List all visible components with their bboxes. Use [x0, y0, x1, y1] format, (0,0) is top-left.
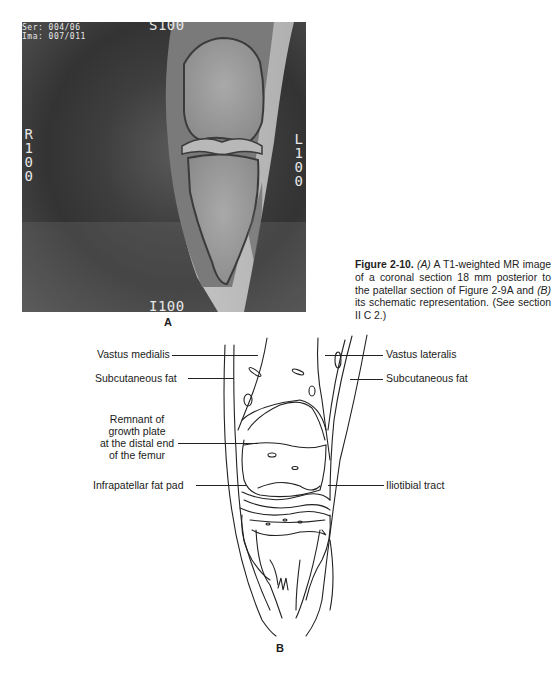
panel-b-label: B: [276, 642, 284, 654]
label-subcutaneous-fat-left: Subcutaneous fat: [95, 372, 177, 384]
leader-vastus-lateralis: [325, 355, 383, 356]
leader-subcutaneous-fat-right: [350, 379, 383, 380]
schematic-drawing: [0, 0, 556, 680]
label-vastus-lateralis: Vastus lateralis: [386, 348, 456, 360]
label-infrapatellar-fat-pad: Infrapatellar fat pad: [93, 479, 183, 491]
leader-growth-plate: [178, 443, 258, 444]
leader-vastus-medialis: [172, 355, 258, 356]
leader-iliotibial-tract: [328, 485, 384, 486]
label-subcutaneous-fat-right: Subcutaneous fat: [386, 372, 468, 384]
label-growth-plate-remnant: Remnant of growth plate at the distal en…: [97, 413, 177, 461]
leader-infrapatellar-fat-pad: [196, 485, 246, 486]
label-iliotibial-tract: Iliotibial tract: [386, 479, 444, 491]
leader-subcutaneous-fat-left: [188, 378, 234, 379]
label-vastus-medialis: Vastus medialis: [97, 348, 170, 360]
